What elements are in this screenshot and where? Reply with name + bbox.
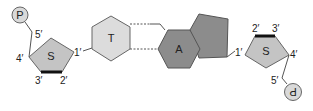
right-sugar-label: S bbox=[262, 45, 269, 57]
left-glycosidic-bond bbox=[83, 48, 92, 51]
right-c5-label: 5′ bbox=[271, 75, 279, 86]
left-c5-label: 5′ bbox=[35, 29, 43, 40]
adenine: A bbox=[158, 14, 235, 68]
right-c1-label: 1′ bbox=[235, 47, 243, 58]
left-sugar-label: S bbox=[47, 50, 54, 62]
left-nucleotide: P S 5′ 4′ 3′ 2′ 1′ T bbox=[12, 7, 130, 86]
right-c4-label: 4′ bbox=[290, 49, 298, 60]
right-nucleotide: 1′ S 2′ 3′ 4′ 5′ P bbox=[235, 23, 302, 101]
thymine-label: T bbox=[108, 32, 115, 44]
left-c2-label: 2′ bbox=[60, 75, 68, 86]
right-glycosidic-bond bbox=[227, 51, 235, 57]
right-c3-label: 3′ bbox=[272, 23, 280, 34]
right-phosphate-bond bbox=[282, 55, 289, 84]
right-c2-label: 2′ bbox=[252, 23, 260, 34]
base-pair-diagram: P S 5′ 4′ 3′ 2′ 1′ T A bbox=[0, 0, 313, 111]
left-c1-label: 1′ bbox=[74, 47, 82, 58]
left-phosphate-label: P bbox=[16, 9, 23, 21]
right-phosphate-label: P bbox=[289, 86, 296, 98]
left-c4-label: 4′ bbox=[16, 53, 24, 64]
phosphate-bond bbox=[25, 22, 32, 57]
adenine-top-bond bbox=[150, 24, 165, 30]
left-c3-label: 3′ bbox=[35, 75, 43, 86]
adenine-label: A bbox=[175, 43, 183, 55]
